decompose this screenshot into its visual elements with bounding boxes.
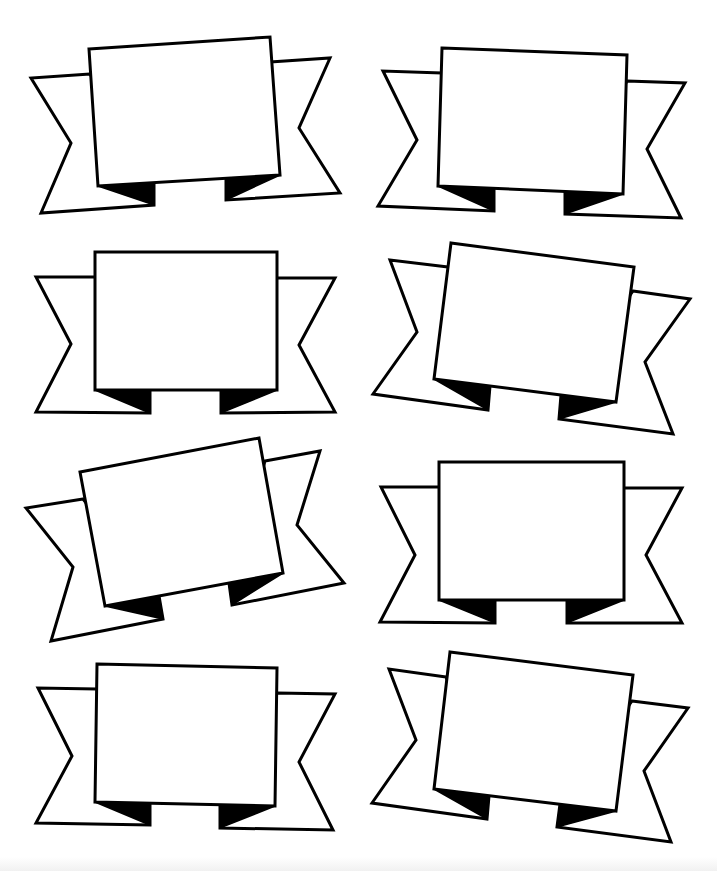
banner-label-panel [439, 462, 624, 600]
banner-8 [372, 652, 688, 842]
banner-template-sheet [0, 0, 717, 871]
banner-label-panel [95, 664, 277, 806]
scan-shadow [0, 857, 717, 871]
banner-label-panel [434, 652, 633, 811]
banner-4 [373, 243, 690, 434]
banner-label-panel [438, 48, 627, 194]
banner-2 [378, 48, 685, 218]
banner-7 [36, 664, 335, 830]
banner-5 [26, 438, 344, 641]
banner-label-panel [89, 37, 280, 186]
banner-3 [36, 252, 335, 413]
banner-label-panel [95, 252, 277, 390]
banner-6 [380, 462, 682, 623]
banner-label-panel [434, 243, 634, 402]
banner-1 [31, 37, 340, 213]
